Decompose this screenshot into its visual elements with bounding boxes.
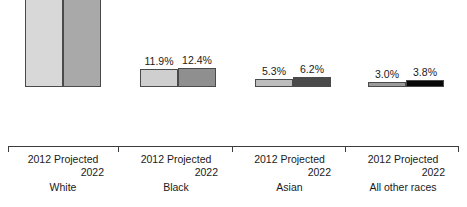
axis-tick-3 (345, 147, 346, 152)
axis-tick-4 (458, 147, 459, 152)
bar-item: 11.9% (140, 0, 178, 87)
x-axis-labels: 2012 Projected 2022 White 2012 Projected… (0, 153, 467, 207)
category-label: Asian (234, 181, 345, 194)
series-label-line2: 2022 (347, 166, 459, 179)
axis-tick-2 (232, 147, 233, 152)
series-label: 2012 Projected 2022 (8, 153, 118, 179)
bar-item: 5.3% (255, 0, 293, 87)
bar-item: 12.4% (178, 0, 216, 87)
category-label: Black (120, 181, 232, 194)
bar-item: 6.2% (293, 0, 331, 87)
series-label: 2012 Projected 2022 (234, 153, 345, 179)
bar-value-label: 11.9% (145, 55, 174, 67)
bar-value-label: 5.3% (262, 65, 286, 77)
bar-rect-2012 (140, 69, 178, 87)
bar-group-black: 11.9% 12.4% (140, 0, 216, 87)
category-label: White (8, 181, 118, 194)
bar-rect-2012 (255, 79, 293, 87)
series-label: 2012 Projected 2022 (120, 153, 232, 179)
series-label-line2: 2022 (234, 166, 345, 179)
bar-item: 79.8% (25, 0, 63, 87)
series-label: 2012 Projected 2022 (347, 153, 459, 179)
bar-rect-projected-2022 (63, 0, 101, 87)
bar-item: 77.7% (63, 0, 101, 87)
series-label-line1: 2012 Projected (28, 153, 99, 165)
x-label-asian: 2012 Projected 2022 Asian (234, 153, 345, 194)
bar-rect-projected-2022 (406, 80, 444, 87)
bar-item: 3.8% (406, 0, 444, 87)
series-label-line1: 2012 Projected (254, 153, 325, 165)
bar-group-all-other-races: 3.0% 3.8% (368, 0, 444, 87)
category-label: All other races (347, 181, 459, 194)
series-label-line1: 2012 Projected (141, 153, 212, 165)
bar-rect-2012 (368, 82, 406, 87)
plot-area: 79.8% 77.7% 11.9% 12.4% 5.3% (0, 0, 467, 148)
bar-group-asian: 5.3% 6.2% (255, 0, 331, 87)
x-label-black: 2012 Projected 2022 Black (120, 153, 232, 194)
x-label-all-other-races: 2012 Projected 2022 All other races (347, 153, 459, 194)
grouped-bar-chart: 79.8% 77.7% 11.9% 12.4% 5.3% (0, 0, 467, 207)
series-label-line2: 2022 (120, 166, 232, 179)
bar-rect-projected-2022 (293, 77, 331, 87)
x-axis-line (8, 146, 459, 147)
bar-value-label: 3.8% (413, 66, 437, 78)
axis-tick-1 (118, 147, 119, 152)
series-label-line1: 2012 Projected (368, 153, 439, 165)
bar-item: 3.0% (368, 0, 406, 87)
bar-value-label: 12.4% (182, 54, 212, 66)
series-label-line2: 2022 (8, 166, 118, 179)
bar-rect-2012 (25, 0, 63, 87)
axis-tick-0 (8, 147, 9, 152)
x-label-white: 2012 Projected 2022 White (8, 153, 118, 194)
bar-group-white: 79.8% 77.7% (25, 0, 101, 87)
bar-value-label: 6.2% (300, 63, 324, 75)
bar-value-label: 3.0% (375, 68, 399, 80)
bar-rect-projected-2022 (178, 68, 216, 87)
